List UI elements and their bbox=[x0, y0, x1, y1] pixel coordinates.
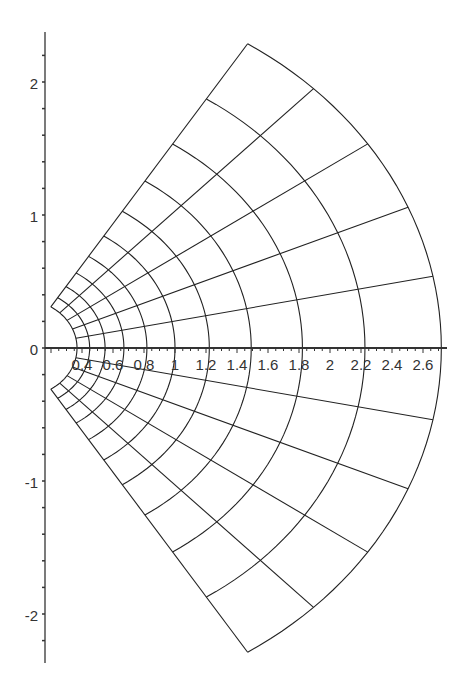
ray-line bbox=[73, 207, 409, 329]
x-tick-label: 2.6 bbox=[413, 356, 434, 373]
ray-line bbox=[67, 376, 368, 553]
x-tick-label: 2.4 bbox=[382, 356, 403, 373]
ray-line bbox=[67, 144, 368, 321]
y-tick-label: -1 bbox=[25, 474, 38, 491]
x-tick-label: 0.6 bbox=[103, 356, 124, 373]
ray-line bbox=[73, 367, 409, 489]
ray-line bbox=[76, 358, 433, 420]
y-tick-label: 2 bbox=[30, 75, 38, 92]
x-tick-label: 2 bbox=[326, 356, 334, 373]
ray-line bbox=[60, 383, 314, 607]
conformal-grid-plot: 0.40.60.811.21.41.61.822.22.42.6210-1-2 bbox=[0, 0, 467, 690]
x-tick-label: 1.2 bbox=[196, 356, 217, 373]
axes bbox=[42, 32, 447, 663]
x-tick-label: 1 bbox=[171, 356, 179, 373]
x-tick-label: 0.8 bbox=[134, 356, 155, 373]
ray-line bbox=[60, 89, 314, 313]
x-tick-label: 2.2 bbox=[351, 356, 372, 373]
y-tick-label: 0 bbox=[30, 341, 38, 358]
x-tick-label: 0.4 bbox=[72, 356, 93, 373]
x-tick-label: 1.6 bbox=[258, 356, 279, 373]
y-tick-label: -2 bbox=[25, 607, 38, 624]
ray-line bbox=[76, 276, 433, 338]
y-tick-label: 1 bbox=[30, 208, 38, 225]
x-tick-label: 1.4 bbox=[227, 356, 248, 373]
x-tick-label: 1.8 bbox=[289, 356, 310, 373]
